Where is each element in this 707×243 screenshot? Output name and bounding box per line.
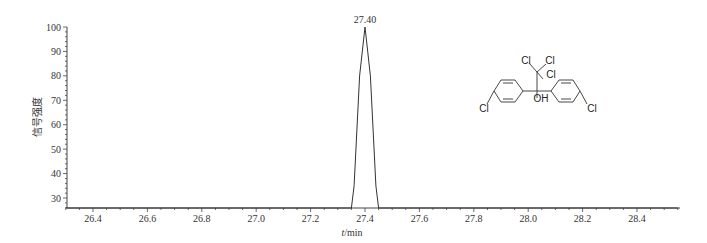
y-tick-label: 100: [46, 22, 61, 33]
cl-label: Cl: [545, 55, 554, 66]
molecule-labels: Cl Cl Cl OH Cl Cl: [479, 55, 596, 114]
cl-label: Cl: [546, 69, 555, 80]
cl-label: Cl: [479, 103, 488, 114]
cl-label: Cl: [587, 103, 596, 114]
y-tick-label: 80: [51, 70, 61, 81]
x-tick-label: 28.4: [628, 213, 646, 224]
x-tick-label: 26.8: [193, 213, 211, 224]
x-tick-label: 27.0: [247, 213, 265, 224]
bond: [580, 91, 587, 104]
peak-label: 27.40: [354, 14, 377, 25]
x-tick-label: 27.4: [356, 213, 374, 224]
y-tick-label: 60: [51, 119, 61, 130]
bond: [537, 72, 543, 79]
x-tick-label: 26.6: [139, 213, 157, 224]
x-axis-label-unit: /min: [344, 227, 362, 238]
y-tick-label: 40: [51, 168, 61, 179]
x-ticks: 26.426.626.827.027.227.427.627.828.028.2…: [66, 208, 678, 224]
cl-label: Cl: [521, 55, 530, 66]
x-tick-label: 27.8: [465, 213, 483, 224]
y-tick-label: 50: [51, 144, 61, 155]
y-axis-label: 信号强度: [31, 97, 43, 137]
x-tick-label: 28.2: [574, 213, 592, 224]
chromatogram-trace: [66, 27, 678, 208]
y-tick-label: 90: [51, 46, 61, 57]
x-tick-label: 28.0: [519, 213, 537, 224]
y-tick-label: 30: [51, 193, 61, 204]
axes: [67, 27, 680, 208]
x-tick-label: 27.2: [302, 213, 320, 224]
x-tick-label: 26.4: [84, 213, 102, 224]
oh-label: OH: [534, 93, 549, 104]
x-axis-label: t/min: [341, 227, 362, 238]
x-tick-label: 27.6: [411, 213, 429, 224]
chromatogram-chart: 30405060708090100 26.426.626.827.027.227…: [0, 0, 707, 243]
y-tick-label: 70: [51, 95, 61, 106]
y-ticks: 30405060708090100: [46, 22, 67, 208]
